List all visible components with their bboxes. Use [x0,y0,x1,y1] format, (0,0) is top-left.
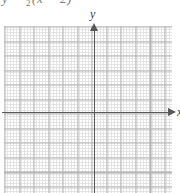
graph-screenshot: y = 12(x − 2) y x [0,0,180,193]
x-axis-label: x [177,106,180,119]
major-gridlines [4,26,172,193]
y-axis-arrowhead-icon [90,23,98,31]
one-half-fraction: 12 [26,0,31,9]
equation-rhs: (x − 2) [32,0,72,6]
equation-lhs: y = [2,0,25,6]
y-axis-line [94,30,95,193]
y-axis-label: y [90,8,95,21]
x-axis-line [2,112,170,113]
equation-caption: y = 12(x − 2) [2,0,72,9]
plot-area [4,26,172,193]
fraction-denominator: 2 [26,0,31,9]
x-axis-arrowhead-icon [168,108,176,116]
